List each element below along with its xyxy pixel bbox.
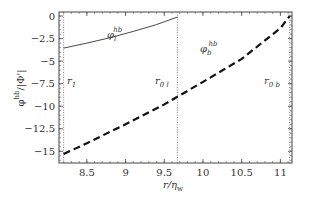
y-tick-label: 0 [49,11,55,22]
x-tick-label: 9.5 [156,167,172,178]
y-tick-label: −15 [34,146,55,157]
x-tick-label: 8.5 [79,167,95,178]
r1-label: r1 [67,75,76,89]
y-tick-label: −5 [40,56,55,67]
y-tick-label: −10 [34,101,55,112]
data-series [64,16,290,154]
chart: 8.599.51010.5110−2.5−5−7.5−10−12.5−15 r1… [0,0,312,198]
y-tick-label: −7.5 [31,78,55,89]
y-tick-label: −2.5 [31,33,55,44]
y-axis-label: φhb/|Φ'| [13,69,27,106]
r0b-label: r0 b [264,75,280,89]
x-tick-label: 10.5 [231,167,253,178]
phi-b-label: φbhb [200,40,218,57]
x-tick-label: 9 [122,167,128,178]
y-tick-label: −12.5 [24,123,55,134]
x-tick-label: 11 [274,167,287,178]
series-line [64,16,290,154]
x-tick-label: 10 [197,167,210,178]
x-axis-label: r/ηw [163,179,183,193]
reference-lines [64,12,290,163]
r0l-label: r0 l [155,75,169,89]
